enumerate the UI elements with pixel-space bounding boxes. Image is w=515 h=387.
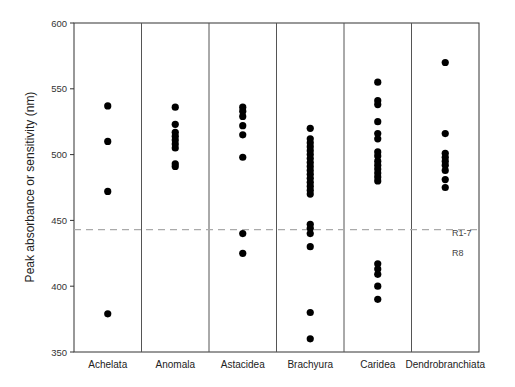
- data-point: [374, 101, 381, 108]
- data-point: [374, 271, 381, 278]
- series-dendrobranchiata: [442, 59, 449, 191]
- data-point: [374, 283, 381, 290]
- data-point: [307, 243, 314, 250]
- data-point: [104, 138, 111, 145]
- data-point: [307, 335, 314, 342]
- data-point: [239, 131, 246, 138]
- x-category-label: Anomala: [156, 359, 196, 370]
- x-category-label: Astacidea: [221, 359, 265, 370]
- y-tick-label: 450: [51, 215, 67, 226]
- data-point: [172, 163, 179, 170]
- data-point: [307, 309, 314, 316]
- dot-plot-chart: 350400450500550600 AchelataAnomalaAstaci…: [0, 0, 515, 387]
- y-tick-label: 350: [51, 347, 67, 358]
- y-tick-label: 600: [51, 18, 67, 29]
- data-point: [374, 118, 381, 125]
- data-point: [239, 250, 246, 257]
- x-category-label: Dendrobranchiata: [406, 359, 486, 370]
- data-point: [104, 310, 111, 317]
- reference-label-above: R1-7: [452, 228, 472, 238]
- series-achelata: [104, 102, 111, 317]
- data-point: [307, 125, 314, 132]
- series-astacidea: [239, 104, 246, 257]
- reference-label-below: R8: [452, 248, 464, 258]
- data-point: [239, 154, 246, 161]
- data-point: [442, 167, 449, 174]
- x-category-label: Achelata: [88, 359, 127, 370]
- x-category-label: Brachyura: [287, 359, 333, 370]
- series-anomala: [172, 104, 179, 170]
- data-point: [239, 122, 246, 129]
- data-point: [104, 188, 111, 195]
- series-caridea: [374, 79, 381, 303]
- data-point: [374, 135, 381, 142]
- data-point: [239, 113, 246, 120]
- y-axis-label: Peak absorbance or sensitivity (nm): [23, 92, 37, 283]
- x-category-label: Caridea: [360, 359, 395, 370]
- y-tick-label: 400: [51, 281, 67, 292]
- data-point: [172, 144, 179, 151]
- y-axis: 350400450500550600: [51, 18, 74, 358]
- y-tick-label: 500: [51, 149, 67, 160]
- data-point: [374, 79, 381, 86]
- data-point: [374, 177, 381, 184]
- data-point: [442, 130, 449, 137]
- y-tick-label: 550: [51, 83, 67, 94]
- data-point: [307, 230, 314, 237]
- series-brachyura: [307, 125, 314, 343]
- data-point: [442, 59, 449, 66]
- x-axis: AchelataAnomalaAstacideaBrachyuraCaridea…: [88, 359, 485, 370]
- data-point: [104, 102, 111, 109]
- data-point: [172, 121, 179, 128]
- data-point: [374, 296, 381, 303]
- data-point: [442, 176, 449, 183]
- data-point: [172, 104, 179, 111]
- plot-frame: [74, 23, 479, 352]
- data-point: [239, 230, 246, 237]
- data-point: [442, 184, 449, 191]
- data-point: [307, 190, 314, 197]
